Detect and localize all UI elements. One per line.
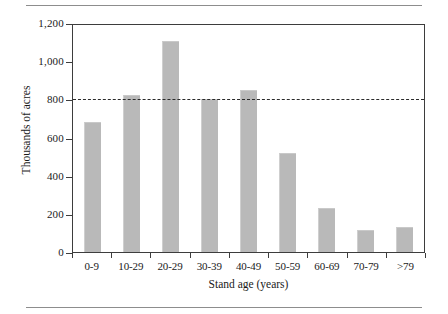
bar[interactable]	[84, 122, 102, 252]
bar-chart: Thousands of acres 02004006008001,0001,2…	[0, 0, 448, 314]
x-axis-tick	[229, 253, 230, 258]
y-axis-tick-label: 0	[4, 247, 64, 258]
x-axis-tick-label: 20-29	[150, 260, 189, 273]
reference-line	[73, 99, 424, 100]
bar-slot	[346, 25, 385, 252]
bar[interactable]	[240, 90, 258, 252]
x-axis-tick-label: >79	[386, 260, 425, 273]
y-axis-tick-label: 200	[4, 209, 64, 220]
x-axis-tick	[150, 253, 151, 258]
bar-slot	[151, 25, 190, 252]
bar-slot	[112, 25, 151, 252]
x-axis-tick-labels: 0-910-2920-2930-3940-4950-5960-6970-79>7…	[72, 260, 425, 273]
bar[interactable]	[279, 153, 297, 252]
bar-series	[73, 25, 424, 252]
bar[interactable]	[318, 208, 336, 252]
x-axis-tick	[386, 253, 387, 258]
y-axis-tick-label: 600	[4, 133, 64, 144]
plot-inner	[73, 25, 424, 252]
x-axis-tick-label: 0-9	[72, 260, 111, 273]
bar-slot	[229, 25, 268, 252]
y-axis-tick-label: 1,000	[4, 56, 64, 67]
bar-slot	[73, 25, 112, 252]
x-axis-tick	[425, 253, 426, 258]
bar[interactable]	[162, 41, 180, 252]
x-axis-tick-label: 10-29	[111, 260, 150, 273]
x-axis-tick-label: 70-79	[347, 260, 386, 273]
figure-container: Thousands of acres 02004006008001,0001,2…	[0, 0, 448, 314]
bar[interactable]	[357, 230, 375, 252]
x-axis-tick-label: 50-59	[268, 260, 307, 273]
y-axis-tick-label: 1,200	[4, 18, 64, 29]
bar[interactable]	[123, 95, 141, 252]
bar[interactable]	[201, 99, 219, 252]
y-axis-tick-label: 800	[4, 94, 64, 105]
bar-slot	[190, 25, 229, 252]
bar-slot	[307, 25, 346, 252]
x-axis-tick-label: 60-69	[307, 260, 346, 273]
bar-slot	[268, 25, 307, 252]
plot-frame	[72, 24, 425, 253]
x-axis-tick	[111, 253, 112, 258]
x-axis-tick	[268, 253, 269, 258]
x-axis-tick	[190, 253, 191, 258]
x-axis-tick-label: 40-49	[229, 260, 268, 273]
x-axis-tick	[72, 253, 73, 258]
x-axis-title: Stand age (years)	[72, 278, 425, 290]
x-axis-tick	[347, 253, 348, 258]
y-axis-tick-label: 400	[4, 171, 64, 182]
x-axis-tick-label: 30-39	[190, 260, 229, 273]
bar-slot	[385, 25, 424, 252]
bar[interactable]	[396, 227, 414, 252]
x-axis-tick	[307, 253, 308, 258]
